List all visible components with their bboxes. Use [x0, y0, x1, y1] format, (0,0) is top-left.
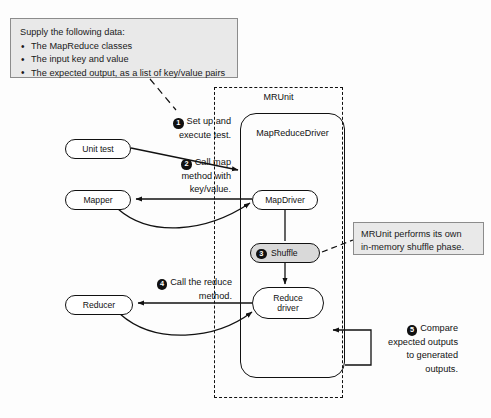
node-reducer-label: Reducer [83, 300, 115, 311]
supply-note-bullet: The MapReduce classes [20, 40, 229, 53]
step-badge-4: 4 [157, 279, 168, 290]
step-badge-2: 2 [181, 159, 192, 170]
node-reduce-driver-label-line2: driver [273, 303, 303, 314]
callout-step-2-line2: method with [133, 170, 231, 184]
node-shuffle-label: Shuffle [271, 248, 298, 259]
node-reduce-driver-label-line1: Reduce [273, 293, 303, 304]
node-shuffle[interactable]: 3 Shuffle [250, 243, 320, 263]
node-mapper-label: Mapper [83, 195, 112, 206]
diagram-canvas: Supply the following data: The MapReduce… [0, 0, 491, 418]
callout-step-1-line2: execute test. [135, 129, 231, 143]
callout-step-4-line1: Call the reduce [170, 277, 232, 287]
supply-note-bullet: The expected output, as a list of key/va… [20, 67, 229, 80]
callout-step-2-line1: Call map [195, 157, 231, 167]
supply-note-title: Supply the following data: [20, 26, 229, 39]
mapreducedriver-label: MapReduceDriver [240, 128, 345, 138]
callout-step-5: 5Compare expected outputs to generated o… [348, 322, 458, 376]
node-map-driver-label: MapDriver [265, 195, 305, 206]
shuffle-note-line2: in-memory shuffle phase. [361, 241, 477, 254]
node-unit-test-label: Unit test [82, 144, 114, 155]
mrunit-label: MRUnit [214, 92, 343, 102]
node-mapper[interactable]: Mapper [65, 190, 131, 210]
callout-step-1: 1Set up and execute test. [135, 115, 231, 142]
supply-data-note: Supply the following data: The MapReduce… [10, 18, 238, 78]
callout-step-4: 4Call the reduce method. [122, 276, 232, 303]
callout-step-1-line1: Set up and [187, 116, 231, 126]
node-map-driver[interactable]: MapDriver [252, 190, 318, 210]
node-unit-test[interactable]: Unit test [65, 139, 131, 159]
step-badge-5: 5 [407, 325, 418, 336]
callout-step-2: 2Call map method with key/value. [133, 156, 231, 197]
shuffle-phase-note: MRUnit performs its own in-memory shuffl… [353, 222, 484, 255]
callout-step-4-line2: method. [122, 290, 232, 304]
callout-step-5-line2: expected outputs [348, 336, 458, 350]
supply-note-list: The MapReduce classes The input key and … [20, 40, 229, 80]
step-badge-1: 1 [173, 118, 184, 129]
node-reduce-driver[interactable]: Reduce driver [252, 287, 324, 319]
leader-supply-note [150, 79, 176, 110]
callout-step-5-line4: outputs. [348, 363, 458, 377]
callout-step-5-line1: Compare [420, 323, 458, 333]
supply-note-bullet: The input key and value [20, 53, 229, 66]
callout-step-2-line3: key/value. [133, 183, 231, 197]
step-badge-3: 3 [256, 249, 267, 260]
shuffle-note-line1: MRUnit performs its own [361, 228, 477, 241]
callout-step-5-line3: to generated [348, 349, 458, 363]
